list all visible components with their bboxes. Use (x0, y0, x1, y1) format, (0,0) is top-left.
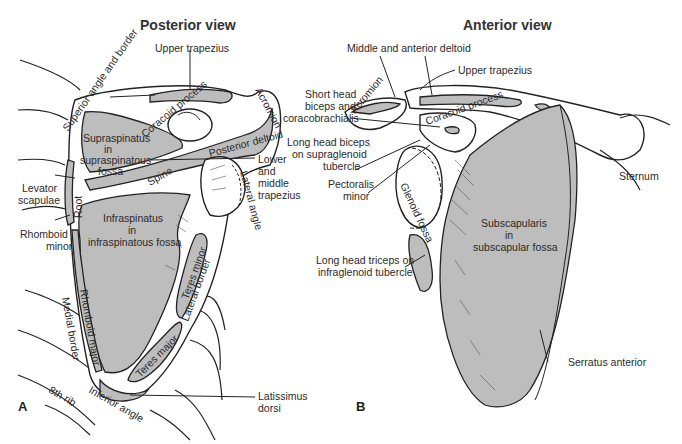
label-rhomboid-minor-2: minor (46, 240, 73, 252)
label-long-head-triceps-1: Long head triceps on (316, 254, 414, 266)
label-long-head-triceps-2: infraglenoid tubercle (318, 266, 413, 278)
label-lower-trapezius-2: and (258, 165, 276, 177)
label-levator-2: scapulae (18, 194, 60, 206)
anterior-view-panel: Anterior view Middle and anterior deltoi… (283, 17, 670, 414)
panel-letter-b: B (356, 399, 365, 414)
label-subscapularis-1: Subscapularis (481, 217, 547, 229)
scapula-diagram: Posterior view Upper trapezius Acromion … (0, 0, 682, 444)
label-infraspinatus-2: in (128, 224, 136, 236)
label-infraspinatus-1: Infraspinatus (103, 212, 163, 224)
label-rhomboid-minor-1: Rhomboid (20, 228, 68, 240)
label-serratus-anterior: Serratus anterior (568, 356, 647, 368)
label-pectoralis-1: Pectoralis (328, 178, 374, 190)
label-subscapularis-3: subscapular fossa (473, 241, 558, 253)
label-upper-trapezius-posterior: Upper trapezius (155, 42, 229, 54)
posterior-view-panel: Posterior view Upper trapezius Acromion … (18, 17, 308, 440)
label-levator-1: Levator (22, 182, 58, 194)
label-long-head-biceps-3: tubercle (323, 160, 361, 172)
label-long-head-biceps-2: on supraglenoid (292, 148, 367, 160)
label-short-head-3: coracobrachialis (283, 112, 359, 124)
anterior-view-title: Anterior view (463, 17, 552, 33)
label-root: Root (72, 196, 84, 218)
label-lower-trapezius-1: Lower (258, 153, 287, 165)
label-short-head-1: Short head (305, 88, 357, 100)
label-sternum: Sternum (619, 170, 659, 182)
label-subscapularis-2: in (505, 229, 513, 241)
label-pectoralis-2: minor (343, 190, 370, 202)
label-lower-trapezius-3: middle (258, 177, 289, 189)
label-long-head-biceps-1: Long head biceps (287, 136, 370, 148)
label-8th-rib: 8th rib (47, 383, 78, 408)
posterior-view-title: Posterior view (140, 17, 236, 33)
label-infraspinatus-3: infraspinatous fossa (88, 236, 182, 248)
label-upper-trapezius-anterior: Upper trapezius (458, 64, 532, 76)
label-middle-anterior-deltoid: Middle and anterior deltoid (347, 42, 471, 54)
label-latissimus-1: Latissimus (258, 390, 308, 402)
panel-letter-a: A (18, 399, 28, 414)
label-supraspinatus-4: fossa (98, 165, 123, 177)
label-lower-trapezius-4: trapezius (258, 189, 301, 201)
coracoid-tendon (445, 127, 459, 134)
label-supraspinatus-1: Supraspinatus (83, 132, 150, 144)
label-latissimus-2: dorsi (258, 402, 281, 414)
